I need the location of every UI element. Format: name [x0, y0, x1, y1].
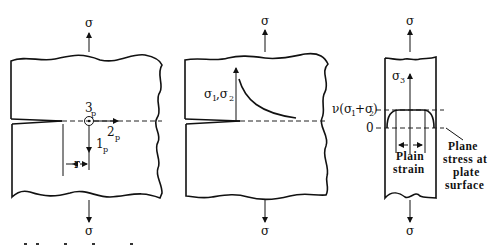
zero-label: 0	[366, 121, 374, 135]
distance-r-label: r	[74, 157, 80, 171]
sigma3-subscript: 3	[400, 76, 405, 85]
stress-decay-curve	[239, 79, 296, 118]
plane-stress-label-line4: surface	[445, 179, 484, 191]
plane-stress-label-line2: stress at	[443, 153, 487, 165]
axis3-out-of-plane-dot-icon	[88, 120, 90, 122]
sigma-load-top: σ	[261, 14, 269, 28]
sigma-load-bottom: σ	[261, 224, 269, 238]
sigma-load-top: σ	[85, 16, 93, 30]
plate-outline	[185, 54, 328, 200]
axis2-subscript: p	[115, 133, 120, 142]
plane-stress-leader-line	[446, 128, 463, 140]
level-label-suffix: )	[373, 102, 378, 116]
axis3-subscript: p	[91, 109, 96, 118]
sigma-load-top: σ	[406, 14, 414, 28]
axis2-label: 2	[107, 125, 115, 139]
plane-stress-label-line1: Plane	[448, 140, 478, 152]
sigma-load-bottom: σ	[406, 224, 414, 238]
plain-strain-label-line2: strain	[393, 163, 425, 175]
crack-lower-face	[12, 121, 62, 124]
stress-label-separator: ,σ	[216, 87, 228, 101]
crack-lower-face	[186, 121, 240, 124]
crack-tip-stress-diagram: σ 3 p 2 p 1 p r σ σ	[0, 0, 494, 245]
stress-label-s1-s2: σ	[204, 87, 212, 101]
nu-s1-plus-s2-label: ν(σ	[332, 102, 352, 116]
sigma-load-bottom: σ	[85, 224, 93, 238]
panel-in-plane-stress-distribution: σ σ 1 ,σ 2 σ	[185, 14, 328, 238]
stress-subscript-2: 2	[229, 94, 234, 103]
sigma3-label: σ	[392, 69, 400, 83]
plane-stress-label-line3: plate	[453, 166, 480, 179]
plate-outline	[11, 55, 162, 198]
panel-through-thickness-stress: σ σ 3 ν(σ 1 +σ 2 ) 0 Plain strain Plane …	[332, 14, 487, 238]
plain-strain-label-line1: Plain	[396, 150, 424, 162]
panel-plate-coordinates: σ 3 p 2 p 1 p r σ	[11, 16, 162, 238]
axis1-subscript: p	[103, 145, 108, 154]
